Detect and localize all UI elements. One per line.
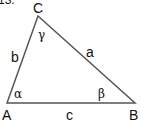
triangle-diagram: 13. C A B b a c α β γ (0, 0, 141, 125)
side-label-c: c (66, 107, 73, 123)
side-label-b: b (11, 49, 19, 65)
side-label-a: a (86, 44, 94, 60)
vertex-label-b: B (129, 107, 138, 123)
angle-label-beta: β (98, 87, 105, 101)
vertex-label-a: A (2, 107, 12, 123)
problem-number: 13. (0, 0, 15, 7)
vertex-label-c: C (33, 0, 43, 16)
triangle-abc (7, 16, 135, 103)
angle-label-gamma: γ (38, 28, 45, 42)
angle-label-alpha: α (14, 87, 22, 101)
